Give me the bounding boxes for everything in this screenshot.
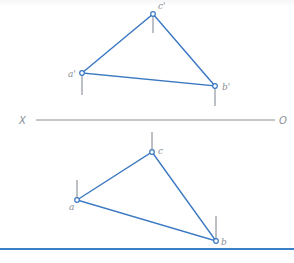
label-a-prime: a' <box>68 69 76 79</box>
top-view-vertices <box>75 150 219 244</box>
label-a: a <box>69 202 74 212</box>
label-c-prime: c' <box>158 1 166 11</box>
projection-diagram: c' a' b' X O c a b <box>0 0 294 263</box>
vertex-a <box>75 198 80 203</box>
vertex-a-prime <box>80 71 85 76</box>
vertex-b <box>214 239 219 244</box>
axis-label-x: X <box>18 115 27 126</box>
vertex-c-prime <box>151 12 156 17</box>
label-c: c <box>158 146 163 156</box>
vertex-b-prime <box>213 84 218 89</box>
front-view-vertices <box>80 12 218 89</box>
front-projection-ticks <box>82 14 215 106</box>
label-b-prime: b' <box>222 82 230 92</box>
front-view-triangle <box>82 14 215 86</box>
top-view-triangle <box>77 152 216 241</box>
vertex-c <box>150 150 155 155</box>
axis-label-o: O <box>279 115 287 126</box>
label-b: b <box>221 237 227 247</box>
